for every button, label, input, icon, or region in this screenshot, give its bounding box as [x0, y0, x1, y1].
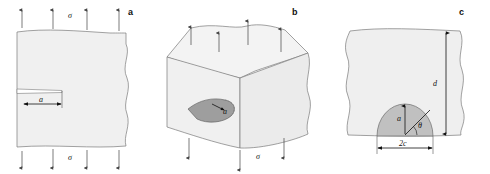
angle-label: θ	[418, 121, 422, 130]
flaw-radius-label: a	[223, 107, 227, 116]
panel-b-label: b	[292, 7, 298, 17]
stress-label-top: σ	[68, 11, 73, 20]
panel-b: b a	[155, 0, 325, 174]
panel-c-label: c	[459, 7, 464, 17]
panel-a-drawing: a σ σ	[0, 0, 160, 174]
panel-c-drawing: a θ 2c d	[320, 0, 490, 174]
flaw-width-label: 2c	[399, 139, 407, 148]
stress-label-bottom: σ	[256, 152, 261, 161]
stress-label-bottom: σ	[68, 153, 73, 162]
flaw-depth-label: a	[397, 114, 401, 123]
crack-length-label: a	[39, 95, 43, 104]
panel-b-drawing: a σ	[155, 0, 325, 174]
plate-body	[17, 30, 128, 147]
panel-a: a a σ	[0, 0, 160, 174]
figure-root: a a σ	[0, 0, 490, 174]
panel-a-label: a	[128, 7, 133, 17]
panel-c: c a θ 2c	[320, 0, 490, 174]
